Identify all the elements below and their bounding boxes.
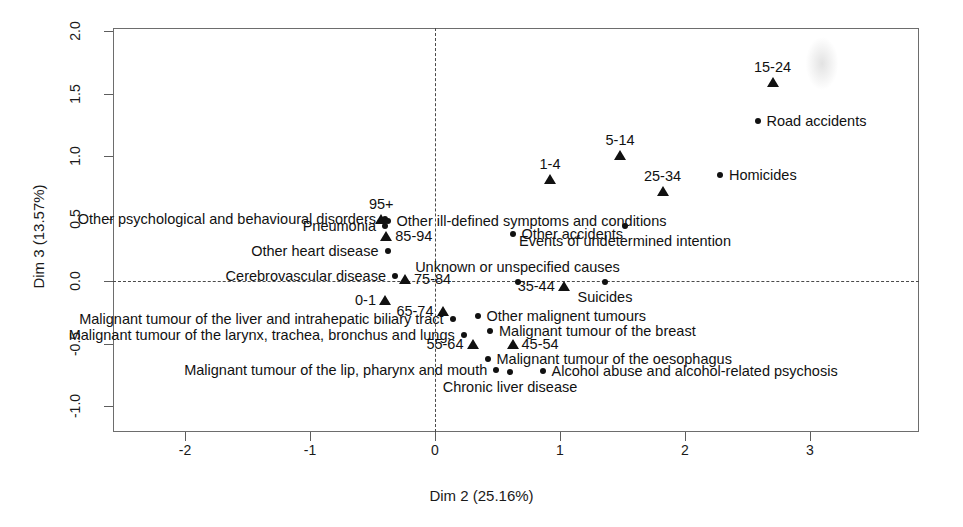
x-tick-mark (560, 432, 561, 441)
data-point-label: Cerebrovascular disease (226, 269, 386, 284)
data-point-label: 95+ (369, 196, 394, 211)
x-tick-mark (185, 432, 186, 441)
data-point-label: Chronic liver disease (443, 380, 578, 395)
data-point-label: 1-4 (540, 156, 561, 171)
data-point-label: Suicides (578, 290, 633, 305)
data-point-marker (475, 313, 481, 319)
x-tick-label: 0 (431, 442, 439, 458)
data-point-label: Alcohol abuse and alcohol-related psycho… (552, 364, 838, 379)
data-point-label: Other heart disease (251, 244, 378, 259)
data-point-marker (622, 223, 628, 229)
data-point-marker (461, 332, 467, 338)
data-point-marker (717, 172, 723, 178)
y-axis-title: Dim 3 (13.57%) (30, 127, 47, 347)
data-point-label: Unknown or unspecified causes (415, 260, 620, 275)
data-point-marker (614, 150, 626, 160)
data-point-marker (507, 339, 519, 349)
y-tick-mark (104, 344, 113, 345)
data-point-marker (379, 295, 391, 305)
y-tick-mark (104, 281, 113, 282)
y-tick-label: 2.0 (55, 23, 95, 39)
data-point-marker (399, 274, 411, 284)
scatter-plot-figure: Dim 3 (13.57%) Dim 2 (25.16%) -2-10123 -… (0, 0, 963, 527)
y-tick-label: -1.0 (55, 398, 95, 414)
data-point-marker (380, 231, 392, 241)
y-tick-mark (104, 94, 113, 95)
data-point-label: Other malignent tumours (487, 309, 647, 324)
data-point-label: 85-94 (395, 229, 432, 244)
x-tick-label: -1 (304, 442, 316, 458)
x-tick-mark (435, 432, 436, 441)
data-point-marker (755, 118, 761, 124)
data-point-marker (558, 281, 570, 291)
data-point-marker (450, 316, 456, 322)
data-point-label: 0-1 (355, 293, 376, 308)
data-point-marker (657, 186, 669, 196)
data-point-marker (493, 367, 499, 373)
y-tick-label: 0.0 (55, 273, 95, 289)
x-tick-label: 3 (806, 442, 814, 458)
data-point-marker (767, 77, 779, 87)
data-point-label: 25-34 (644, 169, 681, 184)
data-point-label: Malignant tumour of the larynx, trachea,… (69, 328, 455, 343)
data-point-label: Malignant tumour of the lip, pharynx and… (184, 363, 487, 378)
data-point-label: Pneumonia (303, 219, 376, 234)
data-point-marker (467, 339, 479, 349)
data-point-marker (515, 279, 521, 285)
data-point-marker (507, 369, 513, 375)
x-tick-label: 2 (681, 442, 689, 458)
x-axis-title: Dim 2 (25.16%) (0, 487, 963, 504)
x-tick-mark (310, 432, 311, 441)
x-tick-mark (810, 432, 811, 441)
x-tick-label: -2 (179, 442, 191, 458)
data-point-marker (487, 328, 493, 334)
data-point-label: Malignant tumour of the breast (499, 324, 696, 339)
data-point-marker (544, 174, 556, 184)
data-point-label: Events of undetermined intention (519, 234, 731, 249)
data-point-marker (382, 223, 388, 229)
data-point-label: Homicides (729, 168, 797, 183)
y-tick-mark (104, 31, 113, 32)
x-tick-mark (685, 432, 686, 441)
x-tick-label: 1 (556, 442, 564, 458)
data-point-label: Malignant tumour of the liver and intrah… (79, 311, 443, 326)
data-point-label: 5-14 (605, 133, 634, 148)
y-tick-mark (104, 406, 113, 407)
data-point-label: 35-44 (518, 279, 555, 294)
data-point-label: Road accidents (767, 114, 867, 129)
data-point-marker (540, 368, 546, 374)
data-point-marker (602, 279, 608, 285)
y-tick-label: 1.5 (55, 86, 95, 102)
data-point-marker (392, 273, 398, 279)
y-tick-label: 1.0 (55, 148, 95, 164)
y-tick-mark (104, 156, 113, 157)
data-point-label: 15-24 (754, 60, 791, 75)
data-point-marker (510, 231, 516, 237)
data-point-marker (385, 248, 391, 254)
